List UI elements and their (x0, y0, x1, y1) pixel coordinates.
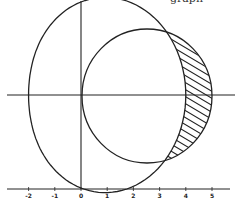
tick-label: 1 (105, 192, 109, 199)
tick-label: 4 (184, 192, 188, 199)
hatched-region (100, 0, 235, 201)
polar-figure: -2-1012345 (0, 0, 235, 201)
tick-label: 3 (158, 192, 162, 199)
tick-label: -1 (51, 192, 58, 199)
tick-label: 2 (131, 192, 135, 199)
tick-label: -2 (25, 192, 32, 199)
tick-label: 5 (210, 192, 214, 199)
tick-label: 0 (79, 192, 83, 199)
